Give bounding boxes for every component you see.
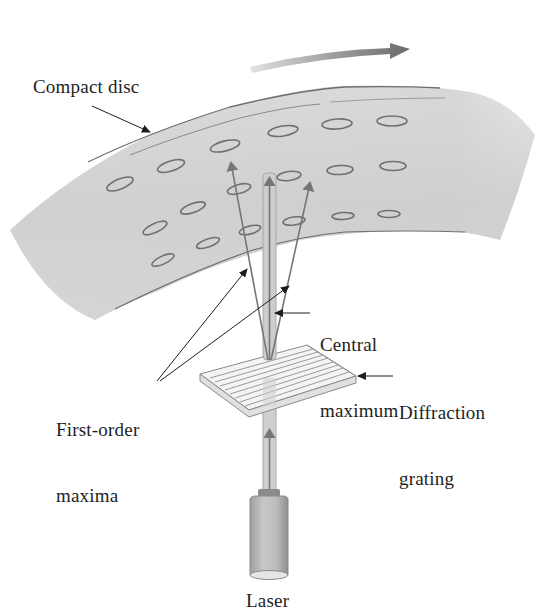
diffraction-grating-label-line2: grating bbox=[399, 468, 485, 490]
first-order-maxima-label-line1: First-order bbox=[56, 419, 139, 441]
central-maximum-beam bbox=[263, 173, 276, 360]
diagram-canvas: Compact disc Central maximum Diffraction… bbox=[0, 0, 556, 615]
laser-device bbox=[250, 489, 288, 580]
central-maximum-label-line2: maximum bbox=[320, 400, 398, 422]
first-order-maxima-label: First-order maxima bbox=[56, 375, 139, 551]
diffraction-grating-label: Diffraction grating bbox=[399, 358, 485, 534]
rotation-arrow-icon bbox=[250, 43, 410, 73]
central-maximum-label: Central maximum bbox=[320, 290, 398, 466]
compact-disc-label: Compact disc bbox=[33, 76, 139, 98]
central-maximum-label-line1: Central bbox=[320, 334, 398, 356]
laser-label: Laser bbox=[246, 590, 289, 612]
first-order-maxima-label-line2: maxima bbox=[56, 485, 139, 507]
diffraction-grating-label-line1: Diffraction bbox=[399, 402, 485, 424]
